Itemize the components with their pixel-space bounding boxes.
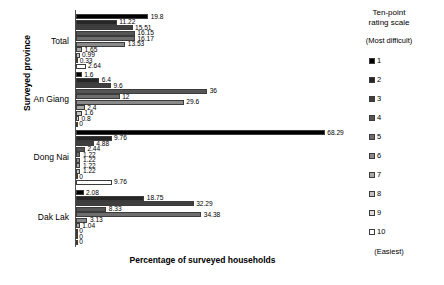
legend-swatch-icon [369, 191, 375, 197]
legend-item[interactable]: 2 [369, 70, 409, 89]
bar-value-label: 0 [79, 120, 83, 127]
bar [76, 196, 144, 201]
bar-value-label: 1.04 [82, 222, 95, 229]
category-label: An Giang [1, 94, 69, 104]
legend-swatch-icon [369, 229, 375, 235]
bar [76, 83, 111, 88]
bar-value-label: 29.6 [186, 98, 199, 105]
bar-value-label: 1.22 [83, 167, 96, 174]
bar-row: 2.44 [76, 147, 331, 152]
bar-row: 9.76 [76, 136, 331, 141]
legend-item-label: 8 [377, 189, 381, 198]
legend-most-difficult-note: (Most difficult) [336, 36, 442, 45]
bar [76, 42, 125, 47]
legend-item[interactable]: 1 [369, 51, 409, 70]
bar-value-label: 2.64 [88, 62, 101, 69]
bar-row: 0 [76, 229, 331, 234]
bar-value-label: 12 [122, 93, 129, 100]
legend: Ten-point rating scale (Most difficult) … [336, 8, 442, 256]
legend-item-label: 7 [377, 170, 381, 179]
bar-value-label: 9.76 [114, 134, 127, 141]
legend-item-label: 6 [377, 151, 381, 160]
legend-swatch-icon [369, 77, 375, 83]
bar [76, 36, 135, 41]
legend-item[interactable]: 10 [369, 222, 409, 241]
legend-title-line1: Ten-point [336, 8, 442, 18]
bar-row: 1.22 [76, 169, 331, 174]
category-label: Dak Lak [1, 212, 69, 222]
bar-value-label: 8.33 [109, 205, 122, 212]
bar-row: 34.38 [76, 212, 331, 217]
bar-row: 1.22 [76, 152, 331, 157]
legend-item[interactable]: 3 [369, 89, 409, 108]
bar-value-label: 6.4 [102, 76, 111, 83]
bar-row: 0.99 [76, 53, 331, 58]
category-label: Total [1, 36, 69, 46]
bar [76, 158, 80, 163]
bar-row: 1.6 [76, 72, 331, 77]
legend-item-list: 12345678910 [336, 51, 442, 241]
legend-item-label: 2 [377, 75, 381, 84]
bar-value-label: 1.6 [84, 71, 93, 78]
legend-item[interactable]: 8 [369, 184, 409, 203]
bar-row: 4.88 [76, 141, 331, 146]
bar [76, 58, 78, 63]
legend-item[interactable]: 7 [369, 165, 409, 184]
legend-swatch-icon [369, 58, 375, 64]
bar-row: 2.64 [76, 64, 331, 69]
bar-value-label: 36 [210, 87, 217, 94]
bar-chart: Surveyed province Total19.811.2215.5116.… [0, 0, 444, 285]
bar-row: 1.04 [76, 223, 331, 228]
bar-row: 29.6 [76, 100, 331, 105]
bar [76, 64, 86, 69]
bar-row: 0 [76, 122, 331, 127]
bar [76, 78, 99, 83]
bar-row: 9.6 [76, 83, 331, 88]
bar-value-label: 18.75 [147, 194, 164, 201]
bar-row: 11.22 [76, 20, 331, 25]
bar-row: 19.8 [76, 14, 331, 19]
legend-item[interactable]: 6 [369, 146, 409, 165]
category-label: Dong Nai [1, 152, 69, 162]
bar-row: 13.53 [76, 42, 331, 47]
legend-item-label: 3 [377, 94, 381, 103]
bar [76, 14, 148, 19]
legend-item-label: 1 [377, 56, 381, 65]
bar-value-label: 13.53 [128, 40, 145, 47]
bar-value-label: 34.38 [204, 211, 221, 218]
legend-item[interactable]: 5 [369, 127, 409, 146]
bar-row: 16.17 [76, 36, 331, 41]
legend-swatch-icon [369, 210, 375, 216]
bar-row: 1.65 [76, 47, 331, 52]
legend-title-line2: rating scale [336, 18, 442, 28]
bar [76, 31, 135, 36]
bar [76, 207, 106, 212]
bar-row: 36 [76, 89, 331, 94]
legend-easiest-note: (Easiest) [336, 247, 442, 256]
bar-row: 9.76 [76, 180, 331, 185]
bar-row: 0.8 [76, 116, 331, 121]
bar-row: 12 [76, 94, 331, 99]
legend-item-label: 9 [377, 208, 381, 217]
bar-row: 0 [76, 234, 331, 239]
bar [76, 94, 120, 99]
bar [76, 163, 80, 168]
legend-item[interactable]: 9 [369, 203, 409, 222]
legend-item[interactable]: 4 [369, 108, 409, 127]
bar [76, 201, 194, 206]
bar-row: 1.22 [76, 163, 331, 168]
bar-row: 1.22 [76, 158, 331, 163]
bar [76, 122, 78, 127]
legend-item-label: 5 [377, 132, 381, 141]
bar-row: 16.15 [76, 31, 331, 36]
legend-swatch-icon [369, 172, 375, 178]
legend-swatch-icon [369, 115, 375, 121]
bar-value-label: 9.6 [113, 82, 122, 89]
bar [76, 229, 78, 234]
bar-value-label: 11.22 [119, 18, 135, 25]
bar-row: 2.4 [76, 105, 331, 110]
legend-swatch-icon [369, 134, 375, 140]
bar-value-label: 0 [79, 173, 83, 180]
bar-value-label: 19.8 [151, 13, 164, 20]
y-axis-title: Surveyed province [22, 0, 32, 148]
